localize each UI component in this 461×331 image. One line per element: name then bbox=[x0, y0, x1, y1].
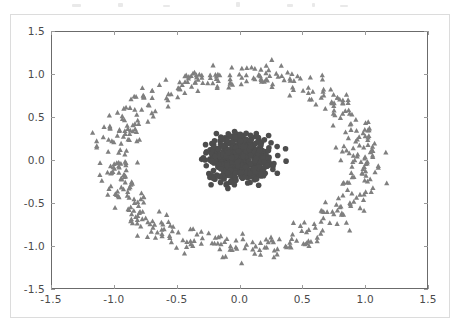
data-point bbox=[125, 123, 130, 128]
data-point bbox=[362, 154, 367, 159]
data-point bbox=[240, 231, 245, 236]
data-point bbox=[320, 228, 325, 233]
y-axis-tick-label: 1.5 bbox=[28, 25, 45, 37]
data-point bbox=[299, 228, 304, 233]
scan-artifact bbox=[163, 5, 170, 7]
data-point bbox=[208, 182, 214, 188]
data-point bbox=[287, 76, 292, 81]
data-point bbox=[206, 230, 211, 235]
data-point bbox=[384, 181, 389, 186]
y-axis-tick bbox=[424, 117, 428, 118]
data-point bbox=[366, 119, 371, 124]
data-point bbox=[270, 163, 276, 169]
data-point bbox=[240, 153, 246, 159]
data-point bbox=[176, 230, 181, 235]
data-point bbox=[101, 135, 106, 140]
data-point bbox=[143, 215, 148, 220]
data-point bbox=[344, 220, 349, 225]
data-point bbox=[340, 149, 345, 154]
data-point bbox=[107, 113, 112, 118]
data-point bbox=[218, 180, 224, 186]
data-point bbox=[97, 172, 102, 177]
data-point bbox=[244, 242, 249, 247]
data-point bbox=[244, 65, 249, 70]
data-point bbox=[363, 189, 368, 194]
x-axis-tick bbox=[428, 31, 429, 35]
data-point bbox=[135, 160, 140, 165]
data-point bbox=[164, 212, 169, 217]
y-axis-tick bbox=[51, 117, 55, 118]
data-point bbox=[101, 124, 106, 129]
data-point bbox=[239, 260, 244, 265]
data-point bbox=[283, 146, 289, 152]
data-point bbox=[331, 92, 336, 97]
data-point bbox=[264, 237, 269, 242]
data-point bbox=[256, 182, 262, 188]
data-point bbox=[217, 174, 223, 180]
data-point bbox=[182, 90, 187, 95]
data-point bbox=[261, 159, 267, 165]
data-point bbox=[229, 155, 235, 161]
x-axis-tick bbox=[177, 285, 178, 289]
y-axis-tick bbox=[51, 246, 55, 247]
y-axis-tick-label: 0.0 bbox=[28, 154, 45, 166]
y-axis-tick-label: -1.5 bbox=[24, 283, 45, 295]
data-point bbox=[321, 87, 326, 92]
data-point bbox=[275, 246, 280, 251]
data-point bbox=[295, 73, 300, 78]
data-point bbox=[347, 200, 352, 205]
data-point bbox=[211, 168, 217, 174]
data-point bbox=[290, 232, 295, 237]
data-point bbox=[336, 195, 341, 200]
data-point bbox=[195, 88, 200, 93]
data-point bbox=[203, 142, 209, 148]
data-point bbox=[180, 238, 185, 243]
data-point bbox=[224, 236, 229, 241]
data-point bbox=[159, 231, 164, 236]
data-point bbox=[217, 246, 222, 251]
data-point bbox=[233, 244, 238, 249]
data-point bbox=[240, 144, 246, 150]
data-point bbox=[258, 171, 264, 177]
data-point bbox=[131, 196, 136, 201]
data-point bbox=[248, 152, 254, 158]
data-point bbox=[357, 192, 362, 197]
data-point bbox=[266, 148, 272, 154]
data-point bbox=[182, 251, 187, 256]
data-point bbox=[253, 244, 258, 249]
data-point bbox=[244, 72, 249, 77]
data-point bbox=[170, 229, 175, 234]
data-point bbox=[243, 131, 249, 137]
data-point bbox=[327, 220, 332, 225]
page-scan-artifact-strip bbox=[0, 0, 461, 13]
data-point bbox=[184, 244, 189, 249]
data-point bbox=[308, 75, 313, 80]
data-point bbox=[285, 70, 290, 75]
data-point bbox=[140, 85, 145, 90]
y-axis-tick bbox=[424, 160, 428, 161]
data-point bbox=[119, 141, 124, 146]
data-point bbox=[236, 148, 242, 154]
data-point bbox=[287, 93, 292, 98]
data-point bbox=[175, 95, 180, 100]
data-point bbox=[163, 77, 168, 82]
data-point bbox=[106, 137, 111, 142]
data-point bbox=[218, 166, 224, 172]
data-point bbox=[209, 158, 215, 164]
data-point bbox=[257, 148, 263, 154]
data-point bbox=[106, 149, 111, 154]
data-point bbox=[145, 234, 150, 239]
y-axis-tick bbox=[51, 31, 55, 32]
x-axis-tick bbox=[302, 285, 303, 289]
data-point bbox=[229, 65, 234, 70]
data-point bbox=[153, 108, 158, 113]
data-point bbox=[120, 114, 125, 119]
data-point bbox=[250, 239, 255, 244]
y-axis-tick bbox=[424, 74, 428, 75]
x-axis-tick bbox=[240, 285, 241, 289]
x-axis-tick-label: -0.5 bbox=[166, 293, 187, 305]
data-point bbox=[320, 73, 325, 78]
data-point bbox=[157, 209, 162, 214]
data-point bbox=[248, 137, 254, 143]
data-point bbox=[116, 170, 121, 175]
